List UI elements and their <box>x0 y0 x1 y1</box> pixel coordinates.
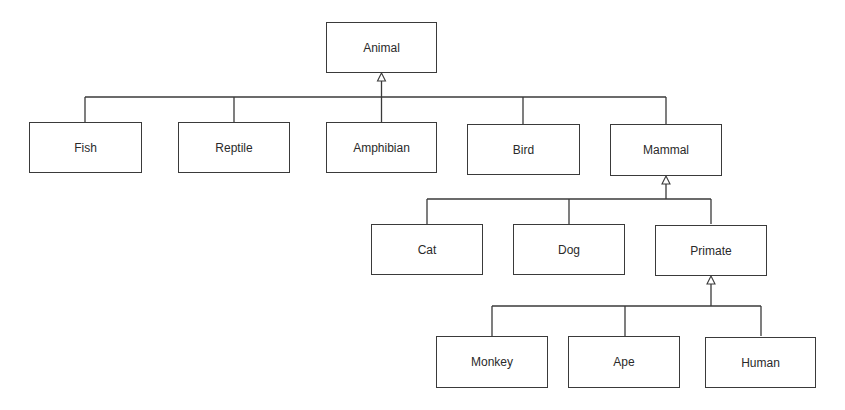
class-box-mammal: Mammal <box>610 124 722 176</box>
class-box-human: Human <box>705 337 816 388</box>
class-hierarchy-diagram: Animal Fish Reptile Amphibian Bird Mamma… <box>0 0 845 410</box>
class-label: Reptile <box>215 141 252 155</box>
class-label: Fish <box>74 141 97 155</box>
class-label: Animal <box>363 41 400 55</box>
primate-generalization-connector <box>492 276 761 336</box>
class-box-amphibian: Amphibian <box>326 122 437 173</box>
class-box-primate: Primate <box>655 225 767 276</box>
class-box-ape: Ape <box>568 336 680 388</box>
generalization-arrow-icon <box>662 176 670 184</box>
class-label: Dog <box>558 243 580 257</box>
generalization-arrow-icon <box>707 276 715 284</box>
class-label: Primate <box>690 244 731 258</box>
class-label: Cat <box>418 243 437 257</box>
class-box-cat: Cat <box>371 224 483 275</box>
class-box-fish: Fish <box>29 122 142 173</box>
class-box-animal: Animal <box>326 22 437 73</box>
class-label: Mammal <box>643 143 689 157</box>
animal-generalization-connector <box>85 73 666 124</box>
class-box-reptile: Reptile <box>178 122 290 173</box>
mammal-generalization-connector <box>427 176 711 224</box>
class-label: Monkey <box>471 355 513 369</box>
class-box-dog: Dog <box>513 224 625 275</box>
generalization-arrow-icon <box>378 73 386 81</box>
class-label: Amphibian <box>353 141 410 155</box>
class-label: Ape <box>613 355 634 369</box>
class-label: Bird <box>513 143 534 157</box>
class-box-monkey: Monkey <box>436 336 548 388</box>
class-box-bird: Bird <box>467 124 580 175</box>
class-label: Human <box>741 356 780 370</box>
